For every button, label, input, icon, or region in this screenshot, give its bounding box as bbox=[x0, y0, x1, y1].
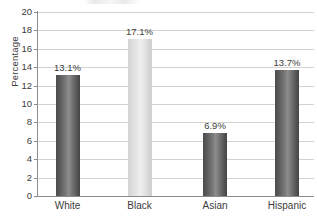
bar-value-label: 13.7% bbox=[257, 57, 317, 68]
y-axis-tick-label: 6 bbox=[4, 136, 32, 146]
y-axis-tick-label: 10 bbox=[4, 99, 32, 109]
bar bbox=[275, 70, 299, 196]
axis-baseline bbox=[38, 196, 314, 197]
bar-value-label: 6.9% bbox=[185, 120, 245, 131]
y-axis-tick-label: 8 bbox=[4, 117, 32, 127]
y-axis-tick-label: 4 bbox=[4, 154, 32, 164]
y-axis-tick-label: 2 bbox=[4, 173, 32, 183]
gridline bbox=[38, 49, 314, 50]
bar bbox=[203, 133, 227, 196]
y-axis-tick-label: 16 bbox=[4, 44, 32, 54]
bar-value-label: 13.1% bbox=[38, 62, 98, 73]
y-axis-tick-label: 18 bbox=[4, 25, 32, 35]
plot-area: 13.1%17.1%6.9%13.7% bbox=[38, 12, 314, 196]
y-axis-tick-label: 14 bbox=[4, 62, 32, 72]
y-axis-tick-label: 12 bbox=[4, 81, 32, 91]
bar-chart-figure: Percentage 02468101214161820 13.1%17.1%6… bbox=[0, 0, 317, 223]
bar bbox=[128, 39, 152, 196]
x-axis-tick-label: White bbox=[28, 200, 108, 212]
cropped-title-artifact bbox=[84, 0, 140, 4]
x-axis-tick-label: Asian bbox=[175, 200, 255, 212]
bar-value-label: 17.1% bbox=[110, 26, 170, 37]
x-axis-tick-label: Black bbox=[100, 200, 180, 212]
y-axis-tick-label: 20 bbox=[4, 7, 32, 17]
gridline bbox=[38, 12, 314, 13]
x-axis-tick-label: Hispanic bbox=[247, 200, 317, 212]
bar bbox=[56, 75, 80, 196]
gridline bbox=[38, 30, 314, 31]
